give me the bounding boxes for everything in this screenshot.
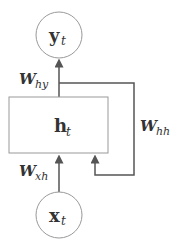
weight-hh-label: W hh [140, 117, 170, 138]
hidden-node: h t [9, 97, 108, 153]
output-node: y t [36, 12, 82, 58]
output-label: y [48, 25, 60, 46]
input-subscript: t [61, 214, 66, 228]
input-node: x t [36, 192, 82, 238]
input-label: x [49, 205, 60, 226]
weight-hy-label: W hy [19, 70, 49, 91]
svg-text:hy: hy [35, 78, 49, 91]
hidden-subscript: t [66, 125, 71, 139]
svg-text:hh: hh [156, 125, 170, 138]
output-subscript: t [61, 34, 66, 48]
rnn-diagram: y t W hy W hh h t W xh x t [0, 0, 178, 244]
weight-xh-label: W xh [19, 162, 48, 183]
svg-text:xh: xh [35, 170, 48, 183]
